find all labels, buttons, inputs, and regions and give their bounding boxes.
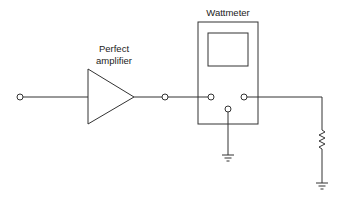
resistor-icon xyxy=(319,130,325,149)
wattmeter xyxy=(198,22,258,124)
input-terminal xyxy=(17,94,88,100)
wattmeter-bottom-terminal xyxy=(225,106,231,112)
output-terminal xyxy=(134,94,208,100)
amplifier-label-line2: amplifier xyxy=(96,55,132,66)
wattmeter-screen xyxy=(208,33,248,66)
wattmeter-label: Wattmeter xyxy=(206,7,249,18)
ground-icon xyxy=(316,149,328,189)
amplifier-label-line1: Perfect xyxy=(99,43,129,54)
wattmeter-right-terminal xyxy=(241,94,247,100)
amplifier-icon xyxy=(88,69,134,124)
circuit-diagram: Perfect amplifier Wattmeter xyxy=(0,0,340,197)
wattmeter-left-terminal xyxy=(208,94,214,100)
ground-icon xyxy=(222,112,234,161)
